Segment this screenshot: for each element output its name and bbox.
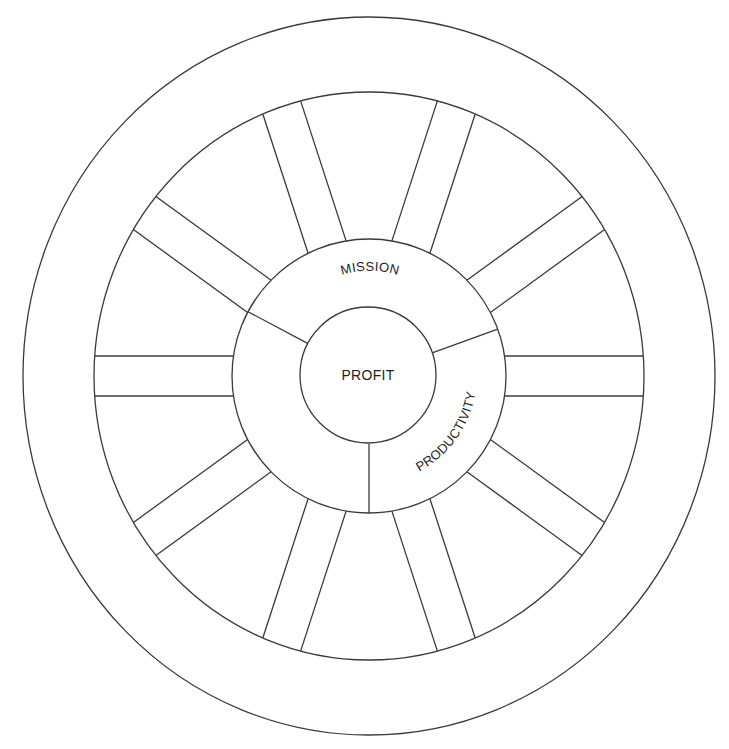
spoke-edge (430, 499, 475, 638)
spoke-edge (301, 511, 347, 651)
spoke-edge (430, 114, 475, 253)
spoke-edge (133, 440, 247, 523)
profit-label: PROFIT (341, 367, 394, 383)
spoke-edge (263, 499, 308, 638)
spoke-edge (133, 230, 247, 313)
spoke-edge (156, 197, 271, 281)
spoke-edge (467, 472, 582, 556)
spoke-edge (392, 101, 438, 241)
spoke-edge (392, 511, 438, 651)
spoke-edge (301, 101, 347, 241)
spoke-edge (156, 472, 271, 556)
spoke-edge (467, 197, 582, 281)
spoke-edge (490, 230, 604, 313)
spoke-edge (490, 440, 604, 523)
spoke-edge (263, 114, 308, 253)
wheel-diagram: PROFIT MISSION PRODUCTIVITY (0, 0, 729, 749)
